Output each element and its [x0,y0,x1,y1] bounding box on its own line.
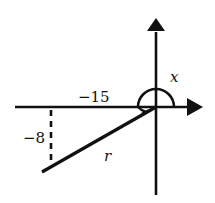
diagram-canvas: x −15 −8 r [0,0,215,203]
angle-label: x [170,68,179,86]
vertical-leg-label: −8 [23,129,45,147]
radius-line [42,107,156,172]
x-axis-arrow-icon [187,98,203,116]
radius-label: r [104,147,112,165]
y-axis-arrow-icon [147,18,165,31]
horizontal-leg-label: −15 [78,88,110,106]
